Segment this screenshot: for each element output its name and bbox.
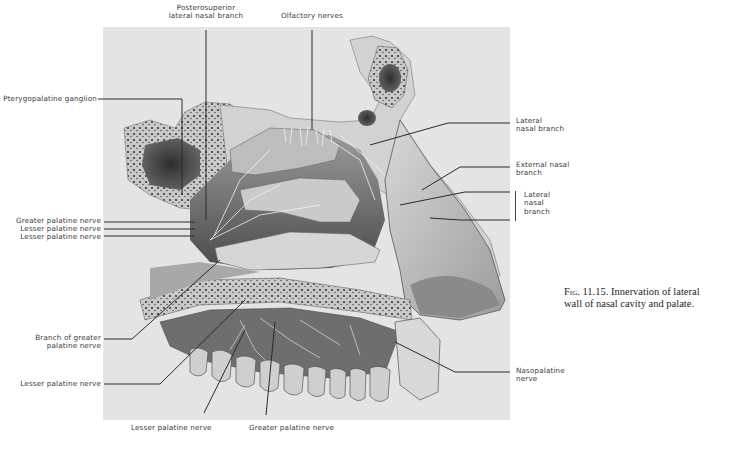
figure-caption: Fig. 11.15. Innervation of lateral wall …	[564, 286, 754, 309]
label-greater-palatine-nerve-bottom: Greater palatine nerve	[249, 424, 334, 432]
label-lateral-nasal-branch-1: Lateral nasal branch	[516, 117, 564, 134]
figure-number: Fig. 11.15.	[564, 286, 608, 297]
label-pterygopalatine-ganglion: Pterygopalatine ganglion	[0, 95, 97, 103]
bracket	[515, 191, 519, 221]
label-external-nasal-branch: External nasal branch	[516, 161, 569, 178]
label-lesser-palatine-nerve-2: Lesser palatine nerve	[0, 233, 101, 241]
label-lesser-palatine-nerve-bottom: Lesser palatine nerve	[131, 424, 212, 432]
caption-line-2: wall of nasal cavity and palate.	[564, 298, 754, 310]
label-olfactory-nerves: Olfactory nerves	[262, 12, 362, 20]
label-posterosuperior-lateral-nasal-branch: Posterosuperior lateral nasal branch	[156, 4, 256, 21]
label-lateral-nasal-branch-2: Lateral nasal branch	[524, 191, 550, 216]
anatomical-illustration	[0, 0, 754, 449]
label-nasopalatine-nerve: Nasopalatine nerve	[516, 367, 565, 384]
label-branch-of-greater-palatine-nerve: Branch of greater palatine nerve	[0, 334, 101, 351]
caption-line-1: Fig. 11.15. Innervation of lateral	[564, 286, 754, 298]
label-lesser-palatine-nerve-3: Lesser palatine nerve	[0, 380, 101, 388]
